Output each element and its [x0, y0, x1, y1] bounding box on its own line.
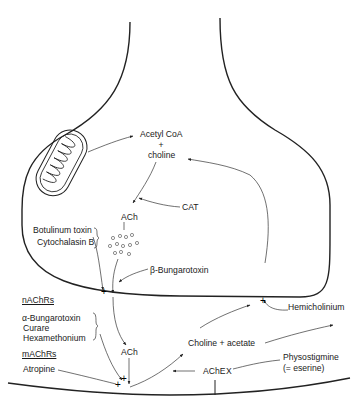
label-eserine: (= eserine)	[283, 363, 324, 373]
label-plus: +	[158, 140, 163, 150]
svg-text:+: +	[101, 286, 107, 297]
svg-text:+: +	[115, 379, 121, 390]
label-ache: AChE	[203, 366, 225, 376]
label-physostigmine: Physostigmine	[283, 352, 339, 362]
label-choline: choline	[148, 150, 175, 160]
label-choline-acetate: Choline + acetate	[188, 338, 255, 348]
svg-text:+: +	[121, 373, 127, 384]
label-hemicholinium: Hemicholinium	[288, 302, 344, 312]
label-hexamethonium: Hexamethonium	[23, 333, 86, 343]
label-machrs: mAChRs	[22, 349, 56, 359]
synaptic-vesicles	[108, 233, 138, 255]
label-curare: Curare	[23, 323, 49, 333]
mitochondrion-icon	[30, 124, 93, 202]
svg-text:+: +	[260, 295, 266, 306]
label-botulinum-toxin: Botulinum toxin	[33, 225, 92, 235]
label-acetyl-coa: Acetyl CoA	[140, 129, 183, 139]
label-cat: CAT	[182, 202, 199, 212]
label-nachrs: nAChRs	[22, 295, 54, 305]
label-alpha-bungarotoxin: α-Bungarotoxin	[22, 313, 80, 323]
label-cytochalasin-b: Cytochalasin B	[37, 237, 94, 247]
label-ache-block: X	[226, 366, 232, 376]
label-beta-bungarotoxin: β-Bungarotoxin	[150, 265, 208, 275]
presynaptic-membrane	[22, 18, 330, 297]
label-ach-cleft: ACh	[121, 347, 138, 357]
label-atropine: Atropine	[23, 364, 55, 374]
postsynaptic-membrane	[8, 378, 350, 395]
label-ach-presynaptic: ACh	[121, 212, 138, 222]
